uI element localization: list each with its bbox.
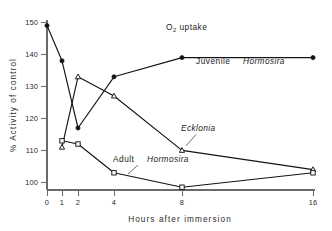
series-line	[47, 26, 313, 128]
annotation-adult-prefix: Adult	[113, 154, 135, 164]
chart-plot-area: 100 110 120 130 140 150 0 1 2 4 8 16 % A…	[0, 0, 332, 231]
y-tick-label-100: 100	[25, 178, 38, 187]
chart-figure: 100 110 120 130 140 150 0 1 2 4 8 16 % A…	[0, 0, 332, 231]
x-tick-label-0: 0	[45, 198, 49, 207]
data-point-1-2	[111, 93, 116, 98]
series-juvenile-hormosira	[45, 24, 315, 131]
x-tick-label-2: 2	[76, 198, 80, 207]
annotation-adult-species: Hormosira	[147, 154, 189, 164]
data-point-1-1	[75, 74, 80, 79]
data-point-0-1	[60, 59, 64, 63]
data-point-2-3	[180, 185, 184, 189]
data-point-2-4	[311, 171, 315, 175]
y-tick-label-150: 150	[25, 18, 38, 27]
x-axis-title: Hours after immersion	[128, 215, 232, 224]
y-tick-label-130: 130	[25, 82, 38, 91]
data-point-2-2	[112, 171, 116, 175]
data-point-2-0	[60, 139, 64, 143]
annotation-juvenile-species: Hormosira	[243, 56, 285, 66]
x-axis-ticks	[47, 190, 313, 196]
y-tick-label-120: 120	[25, 114, 38, 123]
x-tick-label-16: 16	[309, 198, 318, 207]
adult-leader-line	[128, 165, 138, 174]
y-axis-ticks	[41, 22, 47, 182]
data-point-0-2	[76, 126, 80, 130]
x-tick-label-4: 4	[112, 198, 116, 207]
x-tick-label-8: 8	[180, 198, 184, 207]
y-tick-label-140: 140	[25, 50, 38, 59]
y-axis-title: % Activity of control	[9, 58, 18, 152]
data-point-2-1	[76, 142, 80, 146]
data-point-0-3	[112, 75, 116, 79]
series-layer	[45, 24, 316, 190]
x-tick-label-1: 1	[60, 198, 64, 207]
data-point-0-5	[311, 56, 315, 60]
annotation-juvenile-prefix: Juvenile	[196, 56, 230, 66]
data-point-1-0	[59, 144, 64, 149]
annotation-o2-uptake: O2 uptake	[166, 22, 207, 33]
data-point-0-4	[180, 56, 184, 60]
y-tick-label-110: 110	[26, 146, 38, 155]
annotation-ecklonia-species: Ecklonia	[181, 123, 216, 133]
data-point-0-0	[45, 24, 49, 28]
ecklonia-leader-line	[186, 135, 196, 147]
